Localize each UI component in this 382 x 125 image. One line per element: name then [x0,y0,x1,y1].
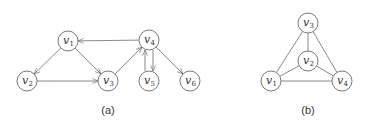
edge-b-v2-v4 [317,66,334,76]
node-b-v4: v4 [332,71,352,91]
node-subscript: 2 [29,80,33,88]
edge-a-v4-v6 [156,47,183,74]
node-subscript: 4 [151,39,156,47]
edge-a-v1-v3 [75,48,101,74]
node-b-v1: v1 [261,71,281,91]
node-subscript: 4 [344,80,349,88]
node-subscript: 2 [310,60,314,68]
node-subscript: 3 [110,80,114,88]
edge-a-v1-v2 [34,48,61,74]
node-subscript: 3 [310,22,314,30]
nodes-layer: v1v2v3v4v5v6v3v2v1v4 [17,13,352,91]
node-a-v6: v6 [180,71,200,91]
node-a-v3: v3 [98,71,118,91]
node-subscript: 5 [151,80,155,88]
node-subscript: 1 [273,80,277,88]
node-a-v2: v2 [17,71,37,91]
caption-a: (a) [101,104,114,116]
graph-canvas: v1v2v3v4v5v6v3v2v1v4 (a)(b) [0,0,382,125]
node-subscript: 6 [192,80,197,88]
edge-b-v2-v1 [280,66,299,76]
node-subscript: 1 [70,40,74,48]
caption-b: (b) [301,104,314,116]
captions-layer: (a)(b) [101,104,314,116]
edge-a-v4-v1 [78,40,139,41]
edge-a-v3-v4 [115,47,142,74]
node-a-v4: v4 [139,30,159,50]
node-a-v1: v1 [58,31,78,51]
node-b-v2: v2 [298,51,318,71]
node-b-v3: v3 [298,13,318,33]
node-a-v5: v5 [139,71,159,91]
